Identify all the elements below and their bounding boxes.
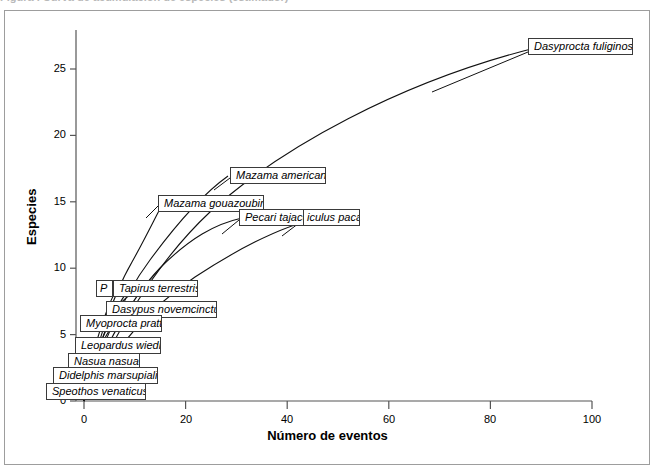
x-tick-label-60: 60	[369, 413, 409, 425]
y-tick-label-10: 10	[42, 261, 66, 273]
x-tick-label-100: 100	[572, 413, 612, 425]
species-label-dasyprocta-fuliginosa: Dasyprocta fuliginosa	[528, 38, 633, 55]
species-label-mazama-americana: Mazama americana	[230, 167, 326, 184]
y-tick-label-25: 25	[42, 62, 66, 74]
species-accumulation-figure: Figura . Curva de acumulación de especie…	[0, 0, 655, 471]
x-axis-title: Número de eventos	[0, 428, 655, 443]
y-tick-label-20: 20	[42, 128, 66, 140]
y-axis-title: Especies	[24, 189, 39, 245]
x-tick-label-80: 80	[470, 413, 510, 425]
y-tick-label-5: 5	[46, 328, 66, 340]
species-label-didelphis-marsupialis: Didelphis marsupialis	[53, 367, 158, 384]
x-tick-label-0: 0	[64, 413, 104, 425]
species-label-pecari-tajacu: Pecari tajacu	[239, 209, 307, 226]
species-label-speothos-venaticus: Speothos venaticus	[46, 383, 146, 400]
x-tick-label-20: 20	[166, 413, 206, 425]
species-label-myoprocta-pratti: Myoprocta pratti	[80, 315, 162, 332]
species-label-proechimys: P	[96, 280, 113, 297]
species-label-tapirus-terrestris: Tapirus terrestris	[113, 280, 198, 297]
species-label-leopardus-wiedii: Leopardus wiedii	[75, 337, 161, 354]
x-tick-marks	[84, 401, 592, 409]
y-tick-label-15: 15	[42, 195, 66, 207]
plot-canvas	[0, 0, 655, 471]
x-tick-label-40: 40	[267, 413, 307, 425]
species-label-cuniculus-paca: iculus paca	[303, 209, 360, 226]
